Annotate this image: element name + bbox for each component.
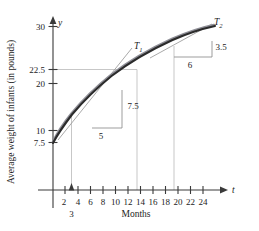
- tangent-line-T1: T1 5 7.5: [58, 41, 143, 141]
- reference-lines: [53, 46, 174, 190]
- tangent-T2-rise-label: 3.5: [215, 42, 227, 52]
- tangent-T1-segment: [58, 48, 132, 140]
- x-tick-label-8: 8: [101, 197, 106, 207]
- x-tick-label-18: 18: [161, 197, 171, 207]
- y-axis-title: Average weight of infants (in pounds): [6, 40, 17, 184]
- marker-label-3: 3: [69, 209, 74, 219]
- x-tick-label-2: 2: [62, 197, 67, 207]
- tangent-T1-rise-label: 7.5: [127, 101, 139, 111]
- x-axis: t 2 4 6 8 10 12: [38, 185, 235, 207]
- tangent-T2-run-label: 6: [188, 60, 193, 70]
- y-axis: y 30 22.5 20 10 7.5: [29, 16, 63, 208]
- x-tick-label-14: 14: [136, 197, 146, 207]
- y-tick-label-10: 10: [36, 126, 46, 136]
- marker-up-arrow-icon: [69, 183, 75, 191]
- x-axis-title: Months: [121, 209, 150, 219]
- x-axis-arrow-icon: [220, 187, 228, 194]
- tangent-T1-slope-triangle: [92, 90, 122, 128]
- x-tick-label-12: 12: [124, 197, 133, 207]
- tangent-T1-subscript: 1: [139, 46, 142, 53]
- tangent-T1-label: T1: [134, 41, 143, 53]
- weight-growth-figure: y 30 22.5 20 10 7.5 Average weight of in…: [0, 0, 259, 231]
- chart-svg: y 30 22.5 20 10 7.5 Average weight of in…: [0, 0, 259, 231]
- y-tick-label-30: 30: [36, 22, 46, 32]
- tangent-T1-run-label: 5: [99, 131, 104, 141]
- marker-t-3: 3: [69, 183, 75, 219]
- y-axis-arrow-icon: [50, 16, 57, 24]
- y-axis-symbol: y: [57, 18, 63, 28]
- x-tick-label-20: 20: [174, 197, 184, 207]
- x-tick-label-24: 24: [199, 197, 209, 207]
- x-axis-symbol: t: [232, 185, 235, 195]
- y-tick-label-7point5: 7.5: [34, 138, 46, 148]
- tangent-T2-subscript: 2: [219, 22, 223, 29]
- x-tick-labels: 2 4 6 8 10 12 14 16 18 20 22 24: [62, 197, 208, 207]
- x-tick-label-4: 4: [76, 197, 81, 207]
- x-tick-label-16: 16: [149, 197, 159, 207]
- y-tick-label-22point5: 22.5: [29, 65, 45, 75]
- x-tick-label-10: 10: [111, 197, 121, 207]
- x-tick-label-22: 22: [186, 197, 195, 207]
- y-tick-label-20: 20: [36, 79, 46, 89]
- tangent-T2-slope-triangle: [174, 41, 212, 57]
- x-tick-label-6: 6: [88, 197, 93, 207]
